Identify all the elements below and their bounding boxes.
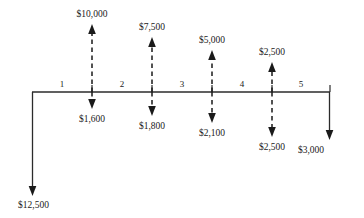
cash-flow-canvas: 1 2 3 4 5 $12,500 $3,000 $10,000 $1 [0,0,364,218]
inflow-4-label: $2,500 [259,47,285,57]
outflow-3-label: $2,100 [199,128,225,138]
outflow-4-label: $2,500 [259,142,285,152]
period-label-5: 5 [299,79,304,89]
period-label-4: 4 [240,79,245,89]
inflow-3-arrowhead [208,50,216,60]
final-outflow-arrowhead [326,130,334,140]
period-label-2: 2 [120,79,125,89]
inflow-2-arrow [148,37,156,92]
initial-outflow-arrowhead [29,186,37,196]
inflow-1-arrowhead [88,24,96,34]
inflow-4-arrow [268,62,276,92]
inflow-4-arrowhead [268,62,276,72]
outflow-4-arrowhead [268,127,276,137]
initial-outflow-arrow [29,92,37,196]
inflow-2-label: $7,500 [139,22,165,32]
inflow-3-label: $5,000 [199,35,225,45]
final-outflow-arrow [326,92,334,140]
outflow-2-arrowhead [148,106,156,116]
outflow-2-arrow [148,92,156,116]
period-labels: 1 2 3 4 5 [60,79,304,89]
outflow-2-label: $1,800 [139,121,165,131]
cash-flow-diagram: 1 2 3 4 5 $12,500 $3,000 $10,000 $1 [0,0,364,218]
initial-outflow-label: $12,500 [18,200,49,210]
outflow-1-label: $1,600 [79,114,105,124]
outflow-3-arrow [208,92,216,123]
inflow-2-arrowhead [148,37,156,47]
final-outflow-label: $3,000 [298,145,324,155]
outflow-1-arrowhead [88,99,96,109]
outflow-3-arrowhead [208,113,216,123]
outflow-4-arrow [268,92,276,137]
period-label-1: 1 [60,79,65,89]
inflow-1-arrow [88,24,96,92]
outflow-1-arrow [88,92,96,109]
inflow-1-label: $10,000 [77,9,108,19]
period-label-3: 3 [180,79,185,89]
